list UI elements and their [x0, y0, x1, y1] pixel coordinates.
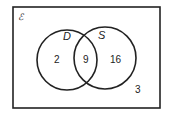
set-d-label: D: [63, 30, 71, 42]
intersection-value: 9: [83, 54, 89, 65]
outside-value: 3: [135, 84, 141, 95]
set-s-label: S: [98, 29, 106, 41]
d-only-value: 2: [54, 54, 60, 65]
universal-set-label: ℰ: [18, 12, 25, 22]
s-only-value: 16: [110, 54, 122, 65]
venn-diagram: ℰ D S 2 9 16 3: [0, 0, 170, 117]
